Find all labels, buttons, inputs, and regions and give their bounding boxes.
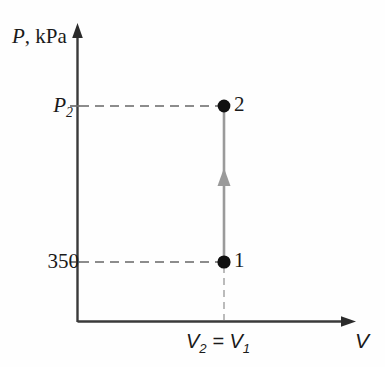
pv-diagram-canvas [0, 0, 385, 367]
y-axis-label-symbol: P [12, 24, 25, 48]
tick-label-p2-symbol: P [53, 93, 66, 117]
axes-group [72, 23, 356, 327]
y-axis-arrow-icon [72, 23, 83, 38]
state-point-1-marker [217, 255, 230, 268]
x-axis-arrow-icon [341, 316, 356, 327]
process-direction-arrow-icon [218, 168, 231, 186]
tick-label-p2-subscript: 2 [66, 105, 73, 120]
state-point-1-label: 1 [234, 250, 245, 271]
guide-lines-group [80, 106, 224, 320]
tick-label-p2: P2 [53, 95, 73, 120]
pv-diagram-figure: P, kPa V P2 350 V2 = V1 2 1 [0, 0, 385, 367]
y-axis-label: P, kPa [12, 26, 67, 47]
tick-label-volume: V2 = V1 [186, 331, 250, 355]
state-point-2-label: 2 [234, 94, 245, 115]
y-axis-label-unit: , kPa [25, 24, 67, 48]
state-point-2-marker [218, 100, 231, 113]
tick-label-volume-text: V2 = V1 [186, 330, 250, 352]
x-axis-label: V [355, 330, 369, 351]
tick-label-350: 350 [48, 251, 80, 272]
process-path-group [218, 106, 231, 262]
